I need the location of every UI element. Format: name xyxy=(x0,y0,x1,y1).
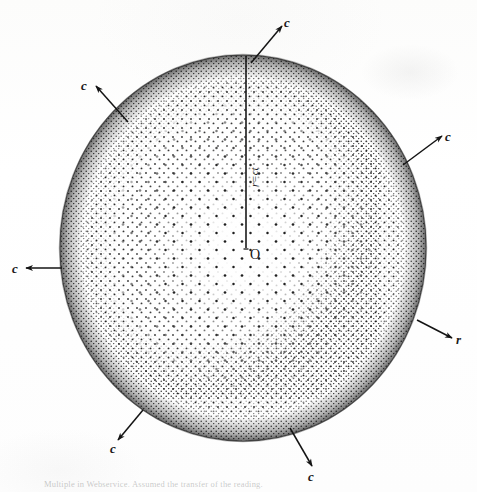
vector-left: c xyxy=(12,261,62,276)
vector-upper-left-label: c xyxy=(81,78,87,93)
sphere-rim-shading xyxy=(60,55,426,441)
vector-left-label: c xyxy=(12,261,18,276)
vector-lower-left-arrow xyxy=(118,410,143,440)
vector-right-radius-arrow xyxy=(417,320,452,338)
vector-upper-right: c xyxy=(403,129,451,165)
vector-top-label: c xyxy=(284,15,290,30)
origin-label: O xyxy=(250,247,260,262)
vector-lower-left: c xyxy=(110,410,143,456)
vector-upper-right-label: c xyxy=(445,129,451,144)
vector-top: c xyxy=(251,15,290,63)
radius-label: r=ct xyxy=(248,166,260,187)
vector-bottom: c xyxy=(290,428,314,484)
vector-bottom-arrow xyxy=(290,428,312,466)
vector-lower-left-label: c xyxy=(110,441,116,456)
figure-canvas: r=ct O c c c c r xyxy=(0,0,477,492)
vector-upper-right-arrow xyxy=(403,136,442,165)
light-sphere-diagram: r=ct O c c c c r xyxy=(0,0,477,492)
vector-right-radius: r xyxy=(417,320,462,347)
sphere-body xyxy=(55,50,435,450)
vector-bottom-label: c xyxy=(308,469,314,484)
vector-right-radius-label: r xyxy=(456,332,462,347)
